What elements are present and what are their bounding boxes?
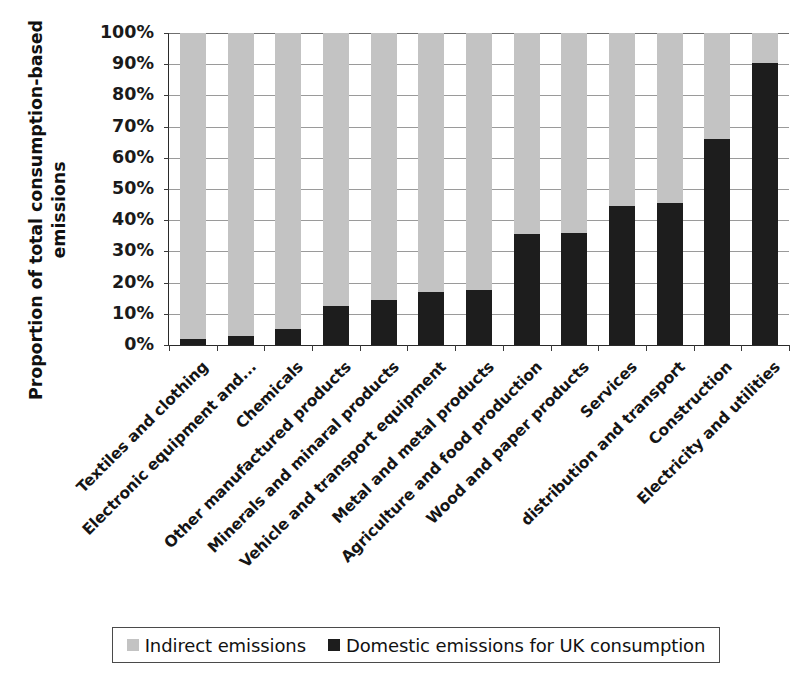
y-axis-tick-mark bbox=[164, 64, 169, 65]
y-axis-title-line-2: emissions bbox=[49, 162, 70, 259]
x-axis-category-label: distribution and transport bbox=[394, 359, 688, 653]
bar-segment-indirect-emissions[interactable] bbox=[752, 33, 778, 63]
bar-column[interactable] bbox=[180, 33, 206, 345]
y-axis-tick-labels: 0%10%20%30%40%50%60%70%80%90%100% bbox=[88, 0, 162, 400]
y-axis-title-line-1: Proportion of total consumption-based bbox=[26, 20, 47, 400]
bar-segment-indirect-emissions[interactable] bbox=[609, 33, 635, 206]
bar-segment-indirect-emissions[interactable] bbox=[180, 33, 206, 339]
y-axis-tick-mark bbox=[164, 220, 169, 221]
x-axis-category-label: Other manufactured products bbox=[61, 359, 355, 653]
x-axis-category-label: Agriculture and food production bbox=[251, 359, 545, 653]
x-axis-tick-mark bbox=[264, 345, 265, 351]
y-axis-tick-label: 90% bbox=[112, 55, 154, 73]
chart-legend: Indirect emissionsDomestic emissions for… bbox=[112, 627, 720, 663]
bar-column[interactable] bbox=[657, 33, 683, 345]
x-axis-tick-mark bbox=[598, 345, 599, 351]
x-axis-category-label: Construction bbox=[442, 359, 736, 653]
x-axis-tick-mark bbox=[312, 345, 313, 351]
x-axis-tick-mark bbox=[551, 345, 552, 351]
x-axis-tick-mark bbox=[407, 345, 408, 351]
x-axis-tick-mark bbox=[217, 345, 218, 351]
bar-segment-domestic-emissions[interactable] bbox=[180, 339, 206, 345]
bar-column[interactable] bbox=[704, 33, 730, 345]
legend-swatch-icon bbox=[328, 639, 340, 651]
bar-column[interactable] bbox=[466, 33, 492, 345]
x-axis-tick-mark bbox=[360, 345, 361, 351]
x-axis-tick-mark bbox=[169, 345, 170, 351]
x-axis-tick-mark bbox=[646, 345, 647, 351]
x-axis-category-label: Wood and paper products bbox=[299, 359, 593, 653]
y-axis-tick-label: 0% bbox=[124, 336, 154, 354]
y-axis-tick-mark bbox=[164, 283, 169, 284]
y-axis-tick-label: 30% bbox=[112, 243, 154, 261]
bar-segment-domestic-emissions[interactable] bbox=[466, 290, 492, 345]
y-axis-tick-mark bbox=[164, 158, 169, 159]
legend-label: Indirect emissions bbox=[145, 635, 306, 656]
y-axis-tick-label: 100% bbox=[100, 24, 154, 42]
bar-segment-indirect-emissions[interactable] bbox=[228, 33, 254, 336]
bar-segment-domestic-emissions[interactable] bbox=[657, 203, 683, 345]
bar-segment-domestic-emissions[interactable] bbox=[323, 306, 349, 345]
bar-column[interactable] bbox=[371, 33, 397, 345]
bar-segment-domestic-emissions[interactable] bbox=[561, 233, 587, 345]
x-axis-category-label: Services bbox=[347, 359, 641, 653]
bar-column[interactable] bbox=[609, 33, 635, 345]
bar-segment-indirect-emissions[interactable] bbox=[323, 33, 349, 306]
bar-column[interactable] bbox=[418, 33, 444, 345]
bar-segment-domestic-emissions[interactable] bbox=[275, 329, 301, 345]
x-axis-tick-mark bbox=[694, 345, 695, 351]
bar-column[interactable] bbox=[514, 33, 540, 345]
y-axis-title: Proportion of total consumption-based em… bbox=[0, 0, 96, 420]
x-axis-category-label: Electricity and utilities bbox=[490, 359, 784, 653]
legend-swatch-icon bbox=[127, 639, 139, 651]
chart-figure: Proportion of total consumption-based em… bbox=[0, 0, 812, 679]
bar-column[interactable] bbox=[275, 33, 301, 345]
x-axis-category-label: Minerals and minaral products bbox=[108, 359, 402, 653]
x-axis-tick-mark bbox=[503, 345, 504, 351]
y-axis-tick-label: 70% bbox=[112, 118, 154, 136]
bar-column[interactable] bbox=[561, 33, 587, 345]
bar-segment-domestic-emissions[interactable] bbox=[228, 336, 254, 345]
x-axis-category-label: Metal and metal products bbox=[204, 359, 498, 653]
y-axis-tick-mark bbox=[164, 127, 169, 128]
x-axis-category-label: Vehicle and transport equipment bbox=[156, 359, 450, 653]
y-axis-tick-mark bbox=[164, 251, 169, 252]
bar-segment-indirect-emissions[interactable] bbox=[418, 33, 444, 292]
bar-segment-domestic-emissions[interactable] bbox=[371, 300, 397, 345]
legend-label: Domestic emissions for UK consumption bbox=[346, 635, 705, 656]
y-axis-tick-label: 80% bbox=[112, 87, 154, 105]
bar-segment-domestic-emissions[interactable] bbox=[609, 206, 635, 345]
legend-item[interactable]: Indirect emissions bbox=[127, 635, 306, 656]
bar-segment-domestic-emissions[interactable] bbox=[704, 139, 730, 345]
bar-segment-indirect-emissions[interactable] bbox=[371, 33, 397, 300]
x-axis-line bbox=[169, 345, 789, 346]
bar-segment-indirect-emissions[interactable] bbox=[657, 33, 683, 203]
legend-item[interactable]: Domestic emissions for UK consumption bbox=[328, 635, 705, 656]
bar-segment-indirect-emissions[interactable] bbox=[514, 33, 540, 234]
bar-segment-indirect-emissions[interactable] bbox=[704, 33, 730, 139]
x-axis-tick-mark bbox=[741, 345, 742, 351]
y-axis-tick-label: 50% bbox=[112, 180, 154, 198]
bar-segment-domestic-emissions[interactable] bbox=[752, 63, 778, 345]
y-axis-tick-label: 20% bbox=[112, 274, 154, 292]
y-axis-tick-label: 40% bbox=[112, 211, 154, 229]
bar-segment-indirect-emissions[interactable] bbox=[466, 33, 492, 290]
plot-area bbox=[168, 33, 789, 345]
y-axis-tick-mark bbox=[164, 314, 169, 315]
x-axis-tick-mark bbox=[455, 345, 456, 351]
bar-column[interactable] bbox=[752, 33, 778, 345]
x-axis-tick-mark bbox=[789, 345, 790, 351]
y-axis-tick-mark bbox=[164, 95, 169, 96]
bar-segment-domestic-emissions[interactable] bbox=[514, 234, 540, 345]
bar-segment-indirect-emissions[interactable] bbox=[275, 33, 301, 329]
bar-column[interactable] bbox=[323, 33, 349, 345]
y-axis-tick-label: 10% bbox=[112, 305, 154, 323]
bar-column[interactable] bbox=[228, 33, 254, 345]
y-axis-tick-label: 60% bbox=[112, 149, 154, 167]
bar-segment-domestic-emissions[interactable] bbox=[418, 292, 444, 345]
y-axis-tick-mark bbox=[164, 33, 169, 34]
y-axis-tick-mark bbox=[164, 189, 169, 190]
bar-segment-indirect-emissions[interactable] bbox=[561, 33, 587, 233]
